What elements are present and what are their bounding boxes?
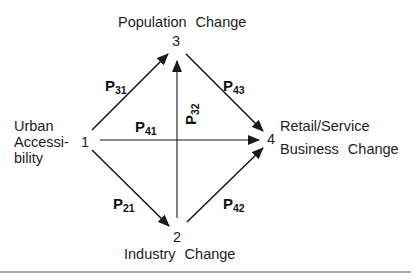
node-2-number: 2 bbox=[173, 229, 181, 245]
coef-p42: P42 bbox=[223, 196, 245, 216]
node-1-number: 1 bbox=[81, 134, 89, 150]
node-4-number: 4 bbox=[267, 131, 275, 147]
node-3-label: PopulationChange bbox=[118, 14, 246, 30]
node-3-number: 3 bbox=[172, 33, 180, 49]
node-1-label-line3: bility bbox=[14, 150, 43, 166]
coef-p41: P41 bbox=[135, 119, 157, 139]
node-3-label-word2: Change bbox=[196, 14, 247, 30]
coef-p31: P31 bbox=[105, 78, 127, 98]
coef-p21: P21 bbox=[113, 196, 135, 216]
node-4-label-line1: Retail/Service bbox=[280, 118, 369, 134]
node-3-label-word1: Population bbox=[118, 14, 187, 30]
node-1-label-line2: Accessi- bbox=[14, 134, 69, 150]
node-4-label-word2: Change bbox=[348, 141, 399, 157]
coef-p43: P43 bbox=[223, 78, 245, 98]
node-2-label-word2: Change bbox=[185, 246, 236, 262]
node-4-label-word1: Business bbox=[280, 141, 339, 157]
coef-p32: P32 bbox=[183, 103, 203, 125]
node-1-label-line1: Urban bbox=[14, 118, 54, 134]
node-2-label: IndustryChange bbox=[124, 246, 235, 262]
path-diagram: PopulationChange 3 Urban Accessi- bility… bbox=[0, 0, 418, 280]
node-4-label-line2: BusinessChange bbox=[280, 141, 399, 157]
node-2-label-word1: Industry bbox=[124, 246, 176, 262]
